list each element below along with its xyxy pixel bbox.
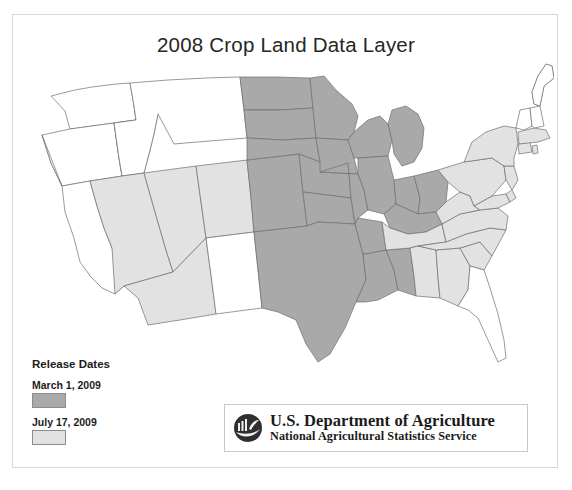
state-TX[interactable] xyxy=(254,222,366,362)
state-MT[interactable] xyxy=(114,77,247,176)
state-NJ[interactable] xyxy=(504,166,518,190)
legend-heading: Release Dates xyxy=(32,358,151,370)
state-NM[interactable] xyxy=(206,232,262,314)
state-ME-body[interactable] xyxy=(532,64,554,106)
state-MI[interactable] xyxy=(388,106,424,166)
state-RI[interactable] xyxy=(532,145,538,154)
state-CO[interactable] xyxy=(247,154,307,232)
legend-label-july: July 17, 2009 xyxy=(32,416,151,428)
usda-subtitle: National Agricultural Statistics Service xyxy=(270,430,495,444)
legend: Release Dates March 1, 2009 July 17, 200… xyxy=(31,358,151,453)
state-WY[interactable] xyxy=(196,160,254,238)
usda-logo-box: U.S. Department of Agriculture National … xyxy=(224,404,528,452)
legend-label-march: March 1, 2009 xyxy=(32,379,151,391)
state-NH[interactable] xyxy=(530,106,544,128)
us-choropleth-map xyxy=(18,62,554,392)
state-MN[interactable] xyxy=(310,76,358,140)
legend-swatch-july xyxy=(32,430,66,445)
state-OR[interactable] xyxy=(42,123,122,186)
usda-seal-icon xyxy=(233,413,263,443)
state-MA[interactable] xyxy=(518,128,550,144)
legend-swatch-march xyxy=(32,393,66,408)
page-title: 2008 Crop Land Data Layer xyxy=(0,33,572,57)
state-SD[interactable] xyxy=(244,108,316,140)
usda-title: U.S. Department of Agriculture xyxy=(270,412,495,430)
state-ND[interactable] xyxy=(240,77,313,110)
state-VT[interactable] xyxy=(516,108,532,130)
